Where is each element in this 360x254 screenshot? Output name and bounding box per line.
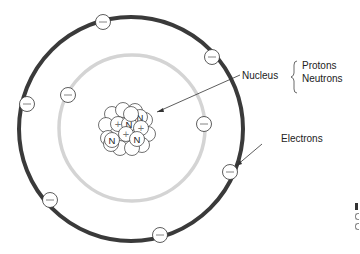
nucleus-label: Nucleus [242, 70, 278, 82]
svg-text:+: + [123, 128, 129, 140]
neutron: N [130, 132, 145, 147]
electron [43, 193, 58, 208]
nucleon [124, 107, 139, 122]
atom-svg: +NN++NN [0, 0, 360, 254]
electron [20, 97, 35, 112]
brace-icon [291, 61, 297, 93]
svg-text:N: N [134, 134, 141, 145]
protons-label: Protons [302, 60, 336, 72]
nucleus-arrowhead-icon [157, 108, 164, 112]
electron [197, 117, 212, 132]
electron [61, 88, 76, 103]
atom-diagram: +NN++NN Nucleus Protons Neutrons Electro… [0, 0, 360, 254]
svg-text:N: N [109, 135, 116, 146]
nucleus-leader-line [157, 75, 240, 112]
neutron: N [105, 133, 120, 148]
svg-text:+: + [115, 118, 121, 130]
neutrons-label: Neutrons [302, 73, 343, 85]
electron [96, 15, 111, 30]
electrons-label: Electrons [281, 133, 323, 145]
electron [153, 228, 168, 243]
electron [223, 165, 238, 180]
nucleus: +NN++NN [99, 103, 156, 156]
cropped-caption-fragment [355, 203, 360, 230]
electron [205, 50, 220, 65]
